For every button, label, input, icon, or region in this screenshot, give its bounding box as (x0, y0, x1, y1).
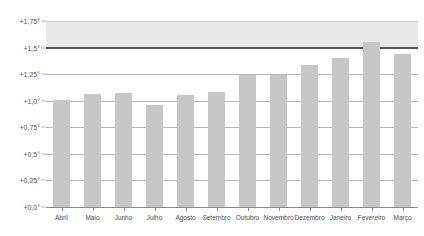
x-axis-label: Novembro (264, 214, 294, 221)
x-axis-label: Agosto (175, 214, 195, 221)
x-axis-tick (186, 207, 187, 211)
x-axis-tick (248, 207, 249, 211)
bar (208, 92, 224, 207)
x-axis: AbrilMaioJunhoJulhoAgostoSetembroOutubro… (46, 207, 418, 236)
x-axis-tick (124, 207, 125, 211)
x-axis-tick (341, 207, 342, 211)
y-axis-label: +1,75° (19, 18, 40, 25)
bar (239, 75, 255, 207)
x-axis-label: Junho (115, 214, 133, 221)
x-axis-label: Janeiro (330, 214, 351, 221)
y-axis-label: +1,0° (23, 97, 40, 104)
x-axis-label: Outubro (236, 214, 260, 221)
x-axis-label: Maio (85, 214, 99, 221)
x-axis-tick (93, 207, 94, 211)
y-axis-label: +1,5° (23, 44, 40, 51)
x-axis-tick (62, 207, 63, 211)
x-axis-label: Abril (55, 214, 68, 221)
y-axis-label: +1,25° (19, 71, 40, 78)
bar (115, 93, 131, 207)
x-axis-tick (217, 207, 218, 211)
x-axis-tick (155, 207, 156, 211)
x-axis-label: Fevereiro (358, 214, 385, 221)
x-axis-label: Dezembro (295, 214, 325, 221)
x-axis-tick (279, 207, 280, 211)
x-axis-label: Março (393, 214, 411, 221)
y-axis-label: +0,0° (23, 204, 40, 211)
x-axis-tick (372, 207, 373, 211)
bar (363, 42, 379, 207)
bar (270, 75, 286, 207)
x-axis-label: Julho (147, 214, 163, 221)
plot-area: +0,0°+0,25°+0,5°+0,75°+1,0°+1,25°+1,5°+1… (46, 21, 418, 207)
bar (146, 105, 162, 207)
bar-chart: +0,0°+0,25°+0,5°+0,75°+1,0°+1,25°+1,5°+1… (0, 0, 424, 236)
bar-series (46, 21, 418, 207)
bar (301, 65, 317, 207)
x-axis-label: Setembro (202, 214, 230, 221)
y-axis-label: +0,5° (23, 150, 40, 157)
bar (332, 58, 348, 207)
bar (84, 94, 100, 207)
y-axis-label: +0,25° (19, 177, 40, 184)
bar (53, 100, 69, 207)
bar (177, 95, 193, 207)
bar (394, 54, 410, 207)
x-axis-tick (310, 207, 311, 211)
y-axis-label: +0,75° (19, 124, 40, 131)
x-axis-tick (403, 207, 404, 211)
